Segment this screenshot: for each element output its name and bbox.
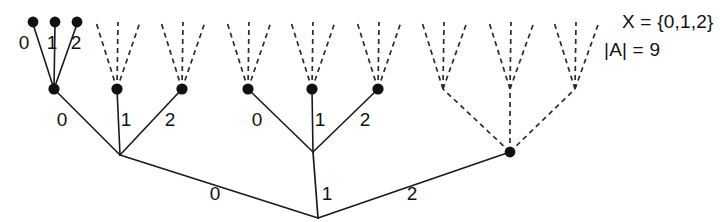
root-edge-label-0: 0: [210, 183, 221, 204]
subtree-right-edge-2: [510, 89, 575, 152]
level1-edge-label-1: 1: [121, 109, 132, 130]
level1-edge-label-0: 0: [57, 109, 68, 130]
leaf-node-dot-1: [50, 17, 61, 28]
leaf-fan-2-edge-1: [117, 22, 118, 89]
leaf-fan-7-edge-2: [443, 22, 467, 89]
leaf-fan-3-edge-0: [161, 22, 182, 89]
subtree-left-edge-1: [117, 89, 120, 155]
leaf-label-1: 1: [47, 32, 58, 53]
level1-edge-label-2: 2: [165, 109, 176, 130]
level1-edge-label-3: 0: [252, 109, 263, 130]
leaf-fan-3-edge-1: [182, 22, 183, 89]
leaf-fan-8-edge-0: [489, 22, 510, 89]
subtree-middle-edge-group: [248, 89, 378, 152]
leaf-fan-4-edge-0: [227, 22, 248, 89]
leaf-fan-2: [96, 22, 140, 89]
leaf-fan-4-edge-1: [248, 22, 249, 89]
leaf-fan-9-edge-0: [554, 22, 575, 89]
tree-diagram-figure: 0 1 2 0 1 2 0 1 2 0 1 2 X = {0,1,2} |A| …: [0, 0, 727, 222]
level1-node-dot-0: [48, 83, 59, 94]
level1-node-dot-2: [176, 83, 187, 94]
level1-edge-label-4: 1: [315, 109, 326, 130]
leaf-fan-8: [489, 22, 534, 89]
leaf-node-dot-2: [72, 17, 83, 28]
root-edge-label-1: 1: [322, 183, 333, 204]
leaf-fan-6-edge-2: [378, 22, 401, 89]
leaf-label-group: 0 1 2: [19, 32, 82, 53]
subtree-left-edge-group: [54, 89, 182, 155]
alphabet-annotation: X = {0,1,2}: [604, 8, 727, 36]
leaf-fan-4-edge-2: [248, 22, 271, 89]
subtree-right-edge-0: [443, 89, 510, 152]
leaf-fan-6: [357, 22, 401, 89]
leaf-fan-8-edge-1: [510, 22, 511, 89]
level1-node-dot-5: [372, 83, 383, 94]
leaf-fan-7-edge-1: [443, 22, 444, 89]
leaf-fan-7-edge-0: [422, 22, 443, 89]
leaf-label-2: 2: [71, 32, 82, 53]
subtree-middle-edge-1: [312, 89, 313, 152]
leaf-fan-8-edge-2: [510, 22, 534, 89]
root-edge-label-2: 2: [407, 183, 418, 204]
annotation-block: X = {0,1,2} |A| = 9: [604, 8, 727, 64]
root-edge-group: [120, 152, 510, 218]
level2-node-dot-2: [505, 147, 516, 158]
leaf-fan-5-edge-0: [291, 22, 312, 89]
leaf-fan-3-edge-2: [182, 22, 205, 89]
level1-edge-label-group: 0 1 2 0 1 2: [57, 109, 371, 130]
leaf-fan-9-edge-2: [575, 22, 599, 89]
leaf-fan-9-edge-1: [575, 22, 576, 89]
leaf-fan-5: [291, 22, 335, 89]
leaf-fan-9: [554, 22, 599, 89]
subtree-right-edge-group: [443, 89, 575, 152]
leaf-label-0: 0: [19, 32, 30, 53]
level1-node-dot-1: [111, 83, 122, 94]
leaf-fan-5-edge-1: [312, 22, 313, 89]
level1-node-dot-3: [242, 83, 253, 94]
level1-edge-label-5: 2: [360, 109, 371, 130]
leaf-fan-7: [422, 22, 467, 89]
leaf-fan-2-edge-2: [117, 22, 140, 89]
level1-node-dot-4: [306, 83, 317, 94]
leaf-fan-3: [161, 22, 205, 89]
size-annotation: |A| = 9: [604, 36, 727, 64]
leaf-fan-6-edge-0: [357, 22, 378, 89]
leaf-fan-2-edge-0: [96, 22, 117, 89]
leaf-fan-5-edge-2: [312, 22, 335, 89]
root-edge-1: [313, 152, 318, 218]
leaf-fan-6-edge-1: [378, 22, 379, 89]
leaf-fan-4: [227, 22, 271, 89]
leaf-node-dot-0: [28, 17, 39, 28]
